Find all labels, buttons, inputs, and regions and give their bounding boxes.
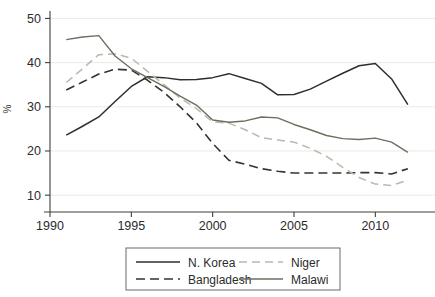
legend-label-text: Malawi — [291, 273, 328, 287]
y-axis-title: % — [2, 104, 13, 113]
x-tick-label: 1990 — [36, 219, 64, 233]
x-tick-label: 2000 — [199, 219, 227, 233]
legend-label-text: N. Korea — [188, 256, 236, 270]
chart-container: 19901995200020052010 1020304050 % N. Kor… — [0, 0, 435, 297]
y-tick-label: 30 — [27, 100, 41, 114]
y-tick-label: 40 — [27, 56, 41, 70]
y-axis-title-text: % — [2, 104, 13, 113]
y-tick-label: 20 — [27, 144, 41, 158]
y-tick-label: 10 — [27, 189, 41, 203]
y-tick-label: 50 — [27, 12, 41, 26]
line-chart-figure: 19901995200020052010 1020304050 % N. Kor… — [0, 0, 435, 297]
legend-label-text: Niger — [291, 256, 320, 270]
x-tick-label: 2010 — [361, 219, 389, 233]
chart-legend: N. KoreaNigerBangladeshMalawi — [126, 248, 340, 290]
x-tick-label: 2005 — [280, 219, 308, 233]
x-tick-label: 1995 — [117, 219, 145, 233]
